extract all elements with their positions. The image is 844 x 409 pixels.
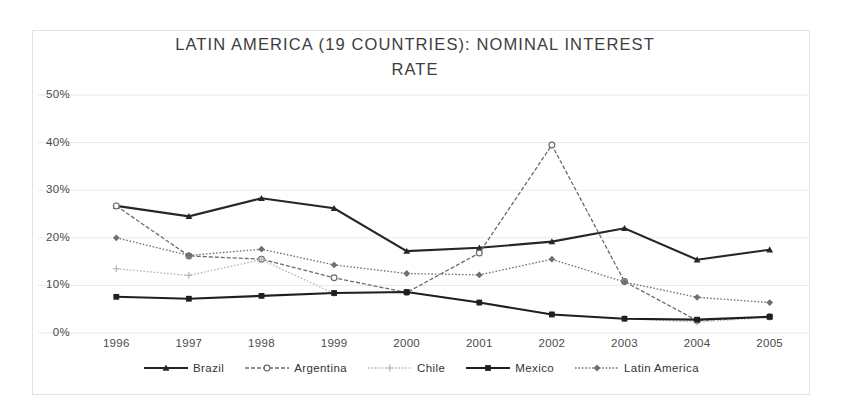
chart-container: LATIN AMERICA (19 COUNTRIES): NOMINAL IN…	[0, 0, 844, 409]
data-point	[258, 246, 265, 253]
series-line	[116, 292, 769, 320]
legend-swatch-triangle-icon	[143, 362, 189, 374]
legend-label: Mexico	[515, 362, 554, 374]
legend-label: Chile	[417, 362, 445, 374]
y-axis-tick-label: 0%	[26, 326, 70, 338]
legend-label: Latin America	[624, 362, 699, 374]
data-point	[766, 299, 773, 306]
legend-item-chile[interactable]: Chile	[367, 362, 445, 374]
x-axis-tick-label: 1999	[304, 337, 364, 349]
legend-swatch-square-icon	[465, 362, 511, 374]
data-point	[186, 272, 193, 279]
chart-legend: BrazilArgentinaChileMexicoLatin America	[32, 362, 810, 374]
series-chile	[113, 256, 773, 325]
series-mexico	[113, 289, 772, 322]
y-axis-tick-label: 10%	[26, 278, 70, 290]
series-line	[116, 260, 769, 322]
data-point	[331, 275, 337, 281]
y-axis-tick-label: 20%	[26, 231, 70, 243]
data-point	[113, 203, 119, 209]
x-axis-tick-label: 1998	[232, 337, 292, 349]
x-axis-tick-label: 2001	[449, 337, 509, 349]
x-axis-tick-label: 2004	[667, 337, 727, 349]
legend-swatch-diamond-icon	[574, 362, 620, 374]
y-axis-tick-label: 50%	[26, 88, 70, 100]
data-point	[331, 262, 338, 269]
legend-item-brazil[interactable]: Brazil	[143, 362, 224, 374]
x-axis-tick-label: 2000	[377, 337, 437, 349]
legend-item-mexico[interactable]: Mexico	[465, 362, 554, 374]
legend-label: Argentina	[294, 362, 347, 374]
y-axis-tick-label: 30%	[26, 183, 70, 195]
data-point	[113, 234, 120, 241]
data-point	[113, 294, 119, 300]
series-line	[116, 145, 769, 321]
data-point	[186, 296, 192, 302]
y-axis-tick-label: 40%	[26, 136, 70, 148]
data-point	[476, 300, 482, 306]
x-axis-tick-label: 1996	[86, 337, 146, 349]
x-axis-tick-label: 2003	[595, 337, 655, 349]
data-point	[694, 294, 701, 301]
data-point	[549, 312, 555, 318]
series-line	[116, 198, 769, 259]
x-axis-tick-label: 1997	[159, 337, 219, 349]
data-point	[694, 317, 700, 323]
data-point	[331, 290, 337, 296]
legend-swatch-plus-icon	[367, 362, 413, 374]
data-point	[476, 272, 483, 279]
data-point	[476, 250, 482, 256]
data-point	[403, 270, 410, 277]
legend-item-argentina[interactable]: Argentina	[244, 362, 347, 374]
series-brazil	[113, 195, 773, 263]
data-point	[404, 289, 410, 295]
data-point	[259, 293, 265, 299]
x-axis-tick-label: 2005	[740, 337, 800, 349]
legend-swatch-circle-icon	[244, 362, 290, 374]
legend-item-latin-america[interactable]: Latin America	[574, 362, 699, 374]
data-point	[622, 316, 628, 322]
data-point	[113, 265, 120, 272]
data-point	[549, 142, 555, 148]
data-point	[549, 256, 556, 263]
x-axis-tick-label: 2002	[522, 337, 582, 349]
data-point	[767, 314, 773, 320]
legend-label: Brazil	[193, 362, 224, 374]
